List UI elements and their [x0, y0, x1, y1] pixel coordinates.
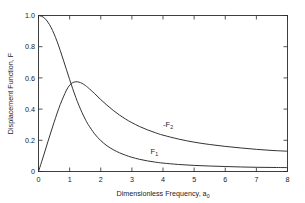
- y-tick-label: 0.8: [25, 42, 35, 51]
- displacement-function-chart: 012345678 00.20.40.60.81.0 F1-F2 Dimensi…: [0, 0, 305, 203]
- x-tick-label: 5: [192, 175, 196, 184]
- y-tick-label: 1.0: [25, 11, 35, 20]
- y-tick-label: 0.4: [25, 105, 35, 114]
- x-tick-label: 8: [286, 175, 290, 184]
- x-tick-label: 6: [223, 175, 227, 184]
- x-axis-title: Dimensionless Frequency, a0: [116, 189, 209, 199]
- x-tick-label: 3: [130, 175, 134, 184]
- x-tick-label: 7: [254, 175, 258, 184]
- svg-text:Displacement Function, F: Displacement Function, F: [6, 52, 15, 134]
- y-tick-label: 0.2: [25, 136, 35, 145]
- y-tick-label: 0.6: [25, 74, 35, 83]
- svg-text:Dimensionless Frequency, a0: Dimensionless Frequency, a0: [116, 189, 209, 199]
- x-tick-label: 1: [68, 175, 72, 184]
- y-axis-title: Displacement Function, F: [6, 52, 15, 134]
- figure-container: 012345678 00.20.40.60.81.0 F1-F2 Dimensi…: [0, 0, 305, 203]
- x-tick-label: 0: [37, 175, 41, 184]
- y-tick-label: 0: [31, 167, 35, 176]
- chart-background: [0, 0, 305, 203]
- x-tick-label: 2: [99, 175, 103, 184]
- x-tick-label: 4: [161, 175, 165, 184]
